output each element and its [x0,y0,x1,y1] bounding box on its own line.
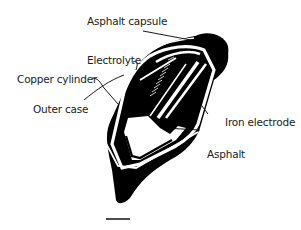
label-asphalt-capsule: Asphalt capsule [87,15,167,27]
battery-illustration [0,0,301,230]
leader-asphalt-capsule [143,31,196,41]
label-outer-case: Outer case [33,103,88,115]
label-iron-electrode: Iron electrode [225,116,295,128]
label-asphalt: Asphalt [207,148,245,160]
label-copper-cylinder: Copper cylinder [17,73,97,85]
diagram-canvas: Asphalt capsule Electrolyte Copper cylin… [0,0,301,230]
label-electrolyte: Electrolyte [87,54,141,66]
